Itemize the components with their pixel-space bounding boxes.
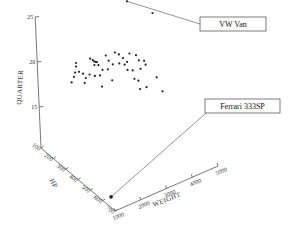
data-point: [96, 61, 98, 63]
data-point: [122, 57, 124, 59]
axes-group: 152025QUARTER100200300400500600700HP1000…: [15, 14, 228, 221]
hp-tick-label: 200: [43, 152, 54, 162]
data-point: [84, 82, 86, 84]
data-point: [118, 53, 120, 55]
quarter-tick: [37, 61, 41, 62]
data-point: [112, 63, 114, 65]
quarter-tick: [39, 106, 43, 107]
data-point: [111, 79, 113, 81]
vw-van-leader-line: [127, 1, 200, 24]
data-point: [126, 61, 128, 63]
vw-van-label: VW Van: [219, 20, 246, 29]
data-point: [89, 73, 91, 75]
hp-tick-label: 600: [93, 194, 104, 204]
points-group: [71, 12, 164, 92]
data-point: [99, 74, 101, 76]
data-point: [151, 12, 153, 14]
hp-tick-label: 300: [56, 163, 67, 173]
data-point: [71, 81, 73, 83]
hp-tick-label: 500: [80, 184, 91, 194]
weight-tick: [217, 163, 218, 166]
data-point: [93, 64, 95, 66]
data-point: [75, 62, 77, 64]
data-point: [78, 71, 80, 73]
data-point: [85, 77, 87, 79]
quarter-tick: [35, 16, 39, 17]
quarter-tick-label: 25: [27, 14, 33, 20]
data-point: [143, 60, 145, 62]
data-point: [75, 66, 77, 68]
data-point: [101, 86, 103, 88]
data-point: [137, 80, 139, 82]
data-point: [138, 59, 140, 61]
ferrari-333sp-label: Ferrari 333SP: [220, 102, 265, 111]
quarter-axis-title: QUARTER: [15, 70, 25, 105]
quarter-axis-line: [35, 17, 41, 148]
data-point: [82, 73, 84, 75]
data-point: [118, 62, 120, 64]
weight-tick-label: 5000: [215, 166, 228, 176]
data-point: [97, 64, 99, 66]
data-point: [145, 64, 147, 66]
data-point: [74, 72, 76, 74]
scatter-3d-chart: 152025QUARTER100200300400500600700HP1000…: [0, 0, 288, 225]
quarter-tick-label: 15: [31, 104, 37, 110]
data-point: [135, 54, 137, 56]
data-point: [107, 68, 109, 70]
weight-tick: [191, 174, 192, 177]
data-point: [126, 69, 128, 71]
weight-tick-label: 4000: [189, 177, 202, 187]
data-point: [139, 88, 141, 90]
data-point: [146, 86, 148, 88]
data-point: [156, 76, 158, 78]
quarter-tick-label: 20: [29, 59, 35, 65]
ferrari-333sp-point: [109, 195, 113, 199]
data-point: [108, 60, 110, 62]
data-point: [105, 54, 107, 56]
data-point: [133, 78, 135, 80]
weight-tick: [140, 197, 141, 200]
data-point: [139, 68, 141, 70]
data-point: [94, 75, 96, 77]
weight-tick-label: 2000: [137, 200, 150, 210]
annotations-group: VW VanFerrari 333SP: [109, 0, 280, 199]
hp-tick-label: 400: [68, 173, 79, 183]
weight-tick: [166, 186, 167, 189]
data-point: [101, 69, 103, 71]
data-point: [89, 58, 91, 60]
data-point: [114, 51, 116, 53]
data-point: [124, 64, 126, 66]
hp-tick-label: 100: [31, 142, 42, 152]
data-point: [128, 52, 130, 54]
data-point: [132, 69, 134, 71]
hp-axis-title: HP: [48, 177, 60, 189]
data-point: [73, 76, 75, 78]
data-point: [161, 90, 163, 92]
vw-van-point: [126, 0, 128, 2]
